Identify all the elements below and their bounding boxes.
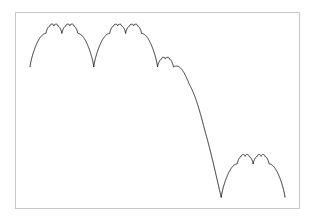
- plot-frame: [16, 13, 300, 209]
- fractal-curve-line: [30, 24, 285, 198]
- fractal-curve-chart: [0, 0, 312, 219]
